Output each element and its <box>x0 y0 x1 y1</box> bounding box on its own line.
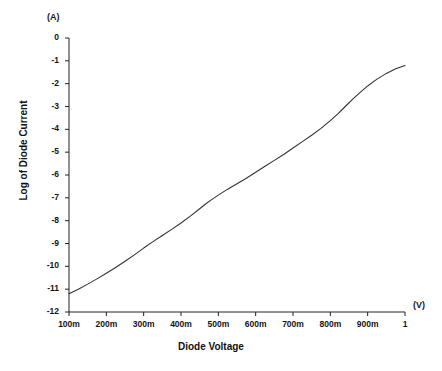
y-axis-ticks <box>65 38 69 312</box>
x-axis-ticks <box>69 312 405 316</box>
axis-lines <box>69 38 405 312</box>
data-series-line <box>69 65 405 293</box>
plot-area <box>0 0 442 371</box>
chart-figure: (A) (V) Log of Diode Current Diode Volta… <box>0 0 442 371</box>
